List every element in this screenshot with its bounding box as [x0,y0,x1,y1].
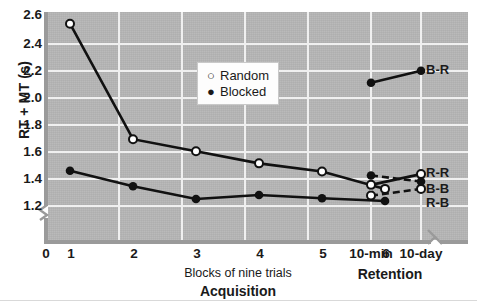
series-label-br: B-R [426,62,449,77]
series-line-br [371,71,421,83]
data-point-rr [417,170,425,178]
x-tick-label: 2 [130,246,138,261]
legend: ○ Random ● Blocked [197,62,279,105]
data-point-blocked [255,191,264,200]
series-line-rb [371,189,421,196]
series-label-rb: R-B [426,195,449,210]
y-axis-title: RT + MT (s) [16,30,32,170]
legend-label-blocked: Blocked [220,84,266,99]
x-tick-label: 3 [193,246,201,261]
data-point-bb [367,171,376,180]
data-point-blocked [381,197,390,206]
x-axis-title-retention: Retention [358,266,423,282]
data-point-random [255,159,263,167]
x-tick-label: 1 [67,246,75,261]
data-point-br [417,66,426,75]
y-tick-label: 1.2 [0,199,42,213]
data-point-blocked [129,182,138,191]
series-line-random [70,24,385,189]
data-point-random [318,167,326,175]
x-axis-spine [44,240,431,244]
data-point-blocked [192,195,201,204]
data-point-rr [367,181,375,189]
x-tick-label: 5 [319,246,327,261]
figure-bottom-rule [0,300,477,301]
x-tick-label: 10-day [400,246,443,261]
legend-item-blocked: ● Blocked [204,83,269,99]
series-label-bb: B-B [426,181,449,196]
x-tick-label: 4 [256,246,264,261]
plot-area: ○ Random ● Blocked [48,12,468,240]
data-point-blocked [66,166,75,175]
data-point-random [192,147,200,155]
data-point-blocked [318,194,327,203]
data-point-random [129,135,137,143]
data-point-random [66,20,74,28]
x-tick-label: 10-min [349,246,393,261]
y-axis-spine [44,12,48,206]
legend-item-random: ○ Random [204,67,269,83]
data-point-br [367,79,376,88]
x-axis-subtitle-acquisition: Blocks of nine trials [184,266,292,280]
series-layer [48,12,468,240]
open-circle-icon: ○ [204,69,218,82]
x-axis-break-icon [425,228,447,248]
filled-circle-icon: ● [204,85,218,98]
x-axis-title-acquisition: Acquisition [200,283,276,299]
y-tick-label: 2.6 [0,8,42,22]
x-tick-label: 0 [42,246,50,261]
y-tick-label: 1.4 [0,172,42,186]
data-point-rb [367,192,375,200]
figure: ○ Random ● Blocked 2.6 2.4 2.2 2.0 1.8 1… [0,0,477,304]
data-point-random [381,185,389,193]
series-label-rr: R-R [426,165,449,180]
data-point-rb [417,185,425,193]
legend-label-random: Random [220,68,269,83]
